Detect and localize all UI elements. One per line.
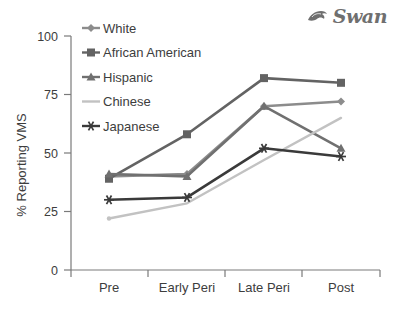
legend-label: Japanese [103,119,159,134]
legend-item-white[interactable]: White [82,21,136,36]
y-tick-label-0: 0 [51,264,58,278]
y-axis-ticks [64,36,71,270]
legend-swatch-marker [87,24,95,32]
legend-label: Hispanic [103,70,153,85]
y-axis-title: % Reporting VMS [14,113,29,217]
x-category-label-post: Post [328,280,354,295]
data-point [260,74,268,82]
y-tick-label-100: 100 [37,30,58,44]
series-line [109,106,341,176]
data-point [107,216,111,220]
x-category-label-pre: Pre [99,280,119,295]
x-category-label-early-peri: Early Peri [159,280,215,295]
chart-container: Swan 0 25 50 75 100 % Reporting VMS [0,0,395,311]
legend-item-chinese[interactable]: Chinese [82,94,151,109]
legend-label: Chinese [103,94,151,109]
legend-label: White [103,21,136,36]
legend-item-african-american[interactable]: African American [82,45,201,60]
legend-item-hispanic[interactable]: Hispanic [82,70,153,85]
legend-swatch-marker [87,49,95,57]
x-category-label-late-peri: Late Peri [238,280,290,295]
line-chart-svg: 0 25 50 75 100 % Reporting VMS Pre Early… [0,0,395,311]
series-white [105,98,345,181]
y-tick-label-50: 50 [44,147,58,161]
chart-legend: WhiteAfrican AmericanHispanicChineseJapa… [82,21,201,134]
legend-swatch-marker [86,122,96,131]
data-point [337,79,345,87]
legend-item-japanese[interactable]: Japanese [82,119,159,134]
data-point [104,195,114,204]
data-point [183,130,191,138]
data-point [336,152,346,161]
y-tick-label-75: 75 [44,88,58,102]
series-line [109,102,341,177]
y-tick-label-25: 25 [44,205,58,219]
x-axis-ticks [71,270,380,277]
series-hispanic [105,102,346,180]
legend-label: African American [103,45,201,60]
data-point [337,98,345,106]
